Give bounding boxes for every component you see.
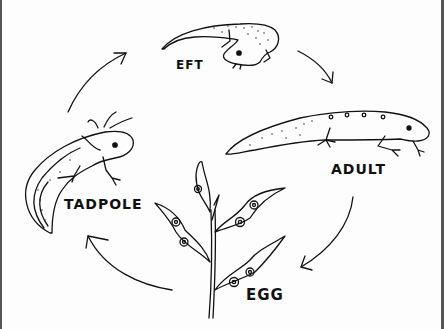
adult-newt-illustration <box>226 111 429 156</box>
stage-label-egg: EGG <box>246 288 284 303</box>
arrow-eft-to-adult <box>298 51 332 83</box>
tadpole-illustration <box>26 112 134 233</box>
arrow-egg-to-tadpole <box>88 236 172 290</box>
life-cycle-diagram: EFT ADULT EGG TADPOLE <box>0 0 445 329</box>
stage-label-eft: EFT <box>176 59 204 71</box>
arrow-tadpole-to-eft <box>68 53 126 112</box>
stage-label-tadpole: TADPOLE <box>64 197 143 211</box>
cycle-arrows <box>68 51 353 290</box>
arrow-adult-to-egg <box>301 197 353 267</box>
stage-label-adult: ADULT <box>331 162 386 176</box>
